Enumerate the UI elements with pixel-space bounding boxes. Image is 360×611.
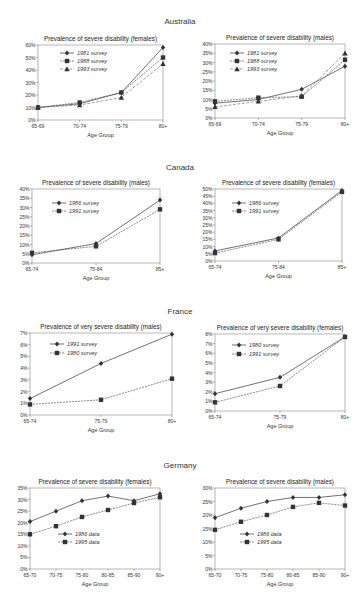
series-line (213, 64, 347, 106)
y-tick-label: 5% (205, 553, 213, 559)
x-tick-label: 90+ (341, 572, 350, 578)
y-tick-label: 3% (20, 377, 28, 383)
y-tick-label: 4% (20, 365, 28, 371)
data-point-diamond-marker (65, 51, 69, 56)
data-point-square-marker (63, 540, 67, 544)
series-line (28, 376, 174, 406)
chart-title: Prevalence of severe disability (females… (44, 35, 157, 43)
data-point-square-marker (55, 351, 59, 355)
y-tick-label: 60% (25, 42, 36, 48)
data-point-square-marker (99, 398, 103, 402)
y-tick-label: 35% (17, 485, 28, 491)
chart-germany-males: Prevalence of severe disability (males)0… (180, 474, 360, 611)
y-tick-label: 30% (17, 497, 28, 503)
x-axis-label: Age Group (87, 132, 114, 138)
chart-france-females: Prevalence of very severe disability (fe… (180, 319, 360, 444)
data-point-square-marker (237, 209, 241, 213)
x-tick-label: 70-74 (73, 123, 86, 129)
series-line (213, 492, 347, 520)
legend-label: 1995 data (257, 539, 281, 545)
x-tick-label: 65-70 (209, 572, 222, 578)
data-point-diamond-marker (343, 64, 347, 69)
legend-label: 1991 survey (69, 208, 100, 214)
data-point-diamond-marker (55, 342, 59, 347)
data-point-square-marker (158, 207, 162, 211)
y-tick-label: 40% (19, 186, 30, 192)
y-tick-label: 30% (19, 205, 30, 211)
data-point-square-marker (106, 508, 110, 512)
data-point-square-marker (161, 55, 165, 59)
legend-label: 1980 survey (249, 342, 280, 348)
legend-label: 1993 survey (77, 66, 108, 72)
y-tick-label: 25% (202, 499, 213, 505)
y-tick-label: 20% (202, 512, 213, 518)
series-line (213, 501, 347, 532)
y-tick-label: 20% (202, 229, 213, 235)
chart-title: Prevalence of very severe disability (fe… (217, 324, 344, 332)
data-point-square-marker (170, 376, 174, 380)
chart-canada-females: Prevalence of severe disability (females… (180, 177, 360, 302)
chart-legend: 1981 survey1988 survey1993 survey (60, 50, 108, 72)
data-point-square-marker (291, 505, 295, 509)
y-tick-label: 3% (205, 379, 213, 385)
y-tick-label: 20% (202, 78, 213, 84)
y-tick-label: 50% (202, 186, 213, 192)
series-line (30, 207, 162, 255)
y-tick-label: 1% (20, 400, 28, 406)
data-point-square-marker (132, 501, 136, 505)
x-axis-label: Age Group (82, 581, 109, 587)
data-point-square-marker (28, 532, 32, 536)
data-point-square-marker (239, 520, 243, 524)
y-tick-label: 20% (25, 92, 36, 98)
y-tick-label: 30% (202, 485, 213, 491)
y-tick-label: 50% (25, 55, 36, 61)
y-tick-label: 7% (20, 330, 28, 336)
series-line (28, 491, 162, 524)
y-tick-label: 4% (205, 370, 213, 376)
y-tick-label: 10% (17, 543, 28, 549)
chart-legend: 1986 data1995 data (58, 531, 99, 545)
legend-label: 1981 survey (247, 50, 278, 56)
y-tick-label: 35% (202, 208, 213, 214)
data-point-square-marker (30, 251, 34, 255)
y-tick-label: 10% (19, 242, 30, 248)
data-point-square-marker (278, 384, 282, 388)
legend-label: 1986 data (75, 531, 99, 537)
data-point-square-marker (54, 524, 58, 528)
y-tick-label: 2% (20, 389, 28, 395)
legend-label: 1980 survey (67, 350, 98, 356)
data-point-diamond-marker (299, 87, 303, 92)
y-tick-label: 25% (17, 508, 28, 514)
chart-australia-males: Prevalence of severe disability (males)0… (180, 30, 360, 150)
data-point-diamond-marker (278, 375, 282, 380)
x-tick-label: 80+ (159, 123, 168, 129)
country-title-australia: Australia (0, 17, 360, 26)
y-tick-label: 25% (19, 214, 30, 220)
data-point-diamond-marker (235, 51, 239, 56)
chart-title: Prevalence of very severe disability (ma… (40, 323, 161, 331)
y-tick-label: 5% (205, 360, 213, 366)
y-tick-label: 35% (202, 50, 213, 56)
data-point-diamond-marker (54, 509, 58, 514)
legend-label: 1986 survey (69, 200, 100, 206)
x-axis-label: Age Group (267, 581, 294, 587)
x-tick-label: 75-79 (295, 121, 308, 127)
y-tick-label: 15% (202, 526, 213, 532)
x-tick-label: 75-80 (261, 572, 274, 578)
legend-label: 1993 survey (247, 66, 278, 72)
data-point-square-marker (213, 400, 217, 404)
y-tick-label: 5% (20, 353, 28, 359)
x-axis-label: Age Group (265, 273, 292, 279)
data-point-diamond-marker (317, 495, 321, 500)
data-point-square-marker (245, 540, 249, 544)
y-tick-label: 15% (202, 87, 213, 93)
data-point-square-marker (80, 515, 84, 519)
y-tick-label: 7% (205, 341, 213, 347)
data-point-diamond-marker (80, 498, 84, 503)
data-point-square-marker (235, 59, 239, 63)
legend-label: 1991 survey (249, 208, 280, 214)
data-point-triangle-marker (160, 61, 165, 66)
y-tick-label: 6% (205, 350, 213, 356)
y-tick-label: 40% (202, 200, 213, 206)
data-point-square-marker (340, 190, 344, 194)
